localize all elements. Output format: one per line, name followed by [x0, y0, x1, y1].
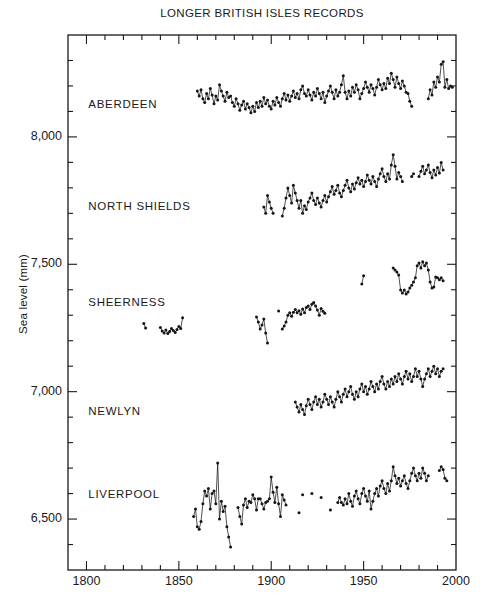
data-point-liverpool — [249, 501, 252, 504]
data-point-aberdeen — [214, 95, 217, 98]
data-point-aberdeen — [229, 95, 232, 98]
data-point-aberdeen — [220, 90, 223, 93]
data-point-north-shields — [368, 179, 371, 182]
data-point-newlyn — [298, 411, 301, 414]
data-point-north-shields — [344, 184, 347, 187]
data-point-liverpool — [403, 474, 406, 477]
data-point-sheerness — [142, 322, 145, 325]
data-point-liverpool — [344, 497, 347, 500]
data-point-liverpool — [384, 492, 387, 495]
figure-canvas: LONGER BRITISH ISLES RECORDS Sea level (… — [0, 0, 487, 603]
data-point-sheerness — [416, 264, 419, 267]
data-point-sheerness — [292, 311, 295, 314]
data-point-liverpool — [419, 477, 422, 480]
data-point-aberdeen — [211, 93, 214, 96]
data-point-north-shields — [397, 171, 400, 174]
data-point-north-shields — [336, 184, 339, 187]
data-point-aberdeen — [283, 92, 286, 95]
data-point-north-shields — [425, 169, 428, 172]
data-point-newlyn — [432, 365, 435, 368]
data-point-newlyn — [394, 375, 397, 378]
data-point-liverpool — [388, 490, 391, 493]
data-point-sheerness — [262, 318, 265, 321]
data-point-aberdeen — [370, 83, 373, 86]
data-point-liverpool — [253, 497, 256, 500]
data-point-newlyn — [334, 398, 337, 401]
data-point-newlyn — [294, 400, 297, 403]
data-point-newlyn — [362, 390, 365, 393]
data-point-north-shields — [312, 199, 315, 202]
data-point-liverpool — [242, 504, 245, 507]
data-point-newlyn — [371, 385, 374, 388]
data-point-liverpool — [405, 482, 408, 485]
data-point-newlyn — [318, 398, 321, 401]
data-point-aberdeen — [346, 97, 349, 100]
data-point-aberdeen — [322, 91, 325, 94]
data-point-sheerness — [307, 305, 310, 308]
data-point-liverpool — [442, 468, 445, 471]
data-point-aberdeen — [368, 91, 371, 94]
data-point-north-shields — [432, 169, 435, 172]
data-point-sheerness — [168, 330, 171, 333]
data-point-newlyn — [427, 367, 430, 370]
data-point-liverpool — [423, 472, 426, 475]
data-point-aberdeen — [244, 107, 247, 110]
data-point-north-shields — [366, 174, 369, 177]
data-point-newlyn — [419, 377, 422, 380]
data-point-north-shields — [334, 189, 337, 192]
station-label-sheerness: SHEERNESS — [88, 296, 165, 308]
data-point-liverpool — [285, 504, 288, 507]
data-point-sheerness — [277, 309, 280, 312]
data-point-newlyn — [323, 393, 326, 396]
data-point-north-shields — [316, 197, 319, 200]
data-point-liverpool — [222, 510, 225, 513]
data-point-aberdeen — [203, 101, 206, 104]
data-point-aberdeen — [397, 82, 400, 85]
data-point-liverpool — [246, 506, 249, 509]
data-point-newlyn — [329, 395, 332, 398]
data-point-sheerness — [286, 314, 289, 317]
data-point-sheerness — [181, 316, 184, 319]
data-point-north-shields — [288, 194, 291, 197]
x-tick-label: 1850 — [152, 574, 206, 588]
data-point-aberdeen — [201, 97, 204, 100]
data-point-aberdeen — [213, 102, 216, 105]
data-point-north-shields — [340, 195, 343, 198]
data-point-north-shields — [325, 200, 328, 203]
data-point-sheerness — [264, 332, 267, 335]
series-line-north-shields — [419, 162, 443, 177]
data-point-sheerness — [410, 284, 413, 287]
data-point-newlyn — [436, 367, 439, 370]
data-point-north-shields — [264, 212, 267, 215]
data-point-north-shields — [338, 192, 341, 195]
data-point-newlyn — [440, 370, 443, 373]
data-point-north-shields — [298, 207, 301, 210]
data-point-liverpool — [397, 477, 400, 480]
data-point-newlyn — [357, 395, 360, 398]
data-point-north-shields — [384, 180, 387, 183]
data-point-liverpool — [427, 474, 430, 477]
data-point-north-shields — [351, 183, 354, 186]
data-point-newlyn — [410, 380, 413, 383]
data-point-aberdeen — [268, 105, 271, 108]
data-point-aberdeen — [312, 91, 315, 94]
data-point-aberdeen — [285, 99, 288, 102]
data-point-liverpool — [261, 502, 264, 505]
data-point-liverpool — [214, 502, 217, 505]
data-point-aberdeen — [338, 91, 341, 94]
data-point-liverpool — [362, 487, 365, 490]
data-point-north-shields — [379, 172, 382, 175]
data-point-sheerness — [144, 327, 147, 330]
data-point-aberdeen — [438, 81, 441, 84]
data-point-sheerness — [314, 305, 317, 308]
data-point-sheerness — [440, 276, 443, 279]
data-point-newlyn — [429, 375, 432, 378]
data-point-liverpool — [209, 507, 212, 510]
data-point-sheerness — [407, 291, 410, 294]
data-point-newlyn — [325, 398, 328, 401]
data-point-aberdeen — [248, 106, 251, 109]
data-point-sheerness — [408, 287, 411, 290]
data-point-north-shields — [427, 163, 430, 166]
data-point-liverpool — [443, 477, 446, 480]
data-point-north-shields — [309, 197, 312, 200]
